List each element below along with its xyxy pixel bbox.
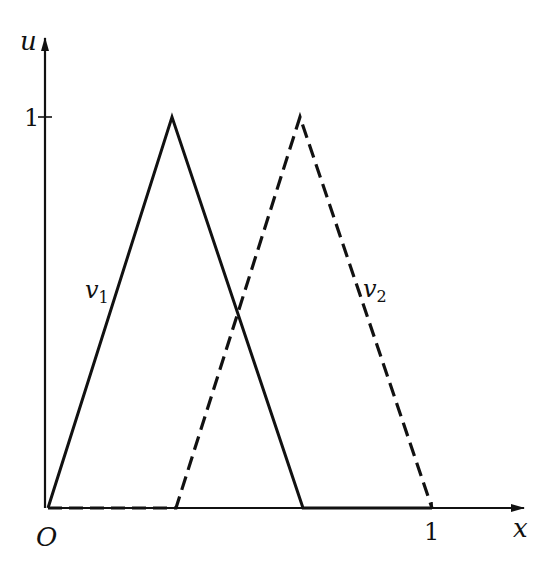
svg-text:v2: v2 (363, 275, 387, 306)
curve-label-v1: v1 (85, 276, 109, 307)
y-tick-label: 1 (24, 104, 39, 132)
y-axis-label: u (20, 26, 37, 56)
origin-label: O (36, 522, 57, 552)
curve-label-v2: v2 (363, 275, 387, 306)
svg-text:v1: v1 (85, 276, 109, 307)
curve-v1 (48, 117, 432, 508)
x-axis-label: x (513, 513, 528, 543)
curve-v2 (48, 117, 432, 508)
x-tick-label: 1 (424, 518, 439, 546)
hat-functions-diagram: u 1 O 1 x v1 v2 (0, 0, 552, 568)
